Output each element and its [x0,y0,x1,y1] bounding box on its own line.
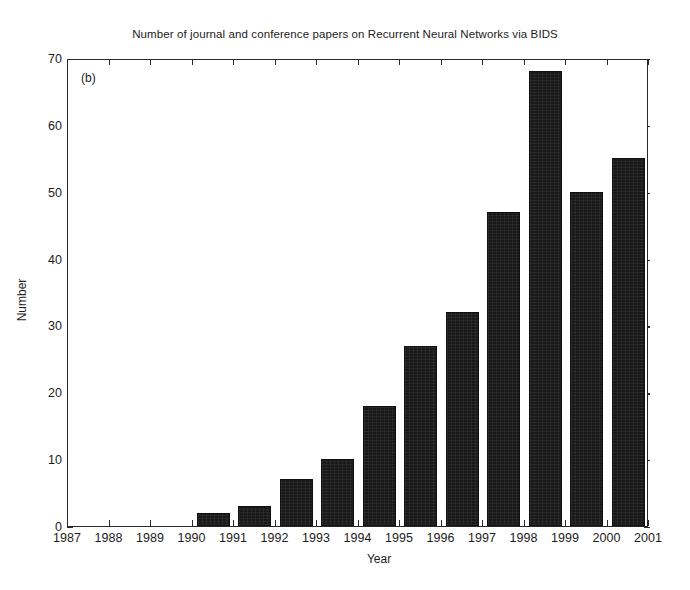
x-tick-mark-1999 [565,520,566,526]
x-tick-mark-1988 [109,520,110,526]
x-tick-mark-top-2001 [648,59,649,65]
bar-1999 [570,192,603,526]
y-tick-60: 60 [16,119,62,133]
x-tick-mark-1991 [233,520,234,526]
bar-1997 [487,212,520,526]
x-axis-tick-marks [67,520,648,528]
x-tick-mark-1998 [524,520,525,526]
x-tick-mark-1987 [67,520,68,526]
x-tick-mark-1996 [441,520,442,526]
y-tick-30: 30 [16,319,62,333]
bar-1995 [404,346,437,527]
bar-1998 [529,71,562,526]
x-tick-mark-top-1997 [482,59,483,65]
x-tick-mark-top-1995 [399,59,400,65]
x-tick-mark-top-1998 [524,59,525,65]
x-tick-mark-top-2000 [607,59,608,65]
x-tick-mark-1990 [192,520,193,526]
x-tick-mark-top-1994 [358,59,359,65]
y-tick-50: 50 [16,186,62,200]
y-tick-40: 40 [16,253,62,267]
x-tick-mark-1989 [150,520,151,526]
y-axis-tick-labels: 010203040506070 [12,59,62,527]
x-axis-label: Year [0,552,690,566]
bar-1994 [363,406,396,526]
x-tick-mark-top-1999 [565,59,566,65]
y-tick-10: 10 [16,453,62,467]
x-tick-mark-top-1990 [192,59,193,65]
x-tick-mark-1994 [358,520,359,526]
x-tick-mark-top-1989 [150,59,151,65]
x-tick-2001: 2001 [618,531,678,545]
y-tick-20: 20 [16,386,62,400]
x-tick-mark-top-1996 [441,59,442,65]
figure-canvas: Number of journal and conference papers … [0,0,690,590]
x-tick-mark-1993 [316,520,317,526]
y-tick-70: 70 [16,52,62,66]
x-tick-mark-top-1988 [109,59,110,65]
bar-2000 [612,158,645,526]
bar-1993 [321,459,354,526]
bar-1996 [446,312,479,526]
bar-1992 [280,479,313,526]
x-axis-tick-labels: 1987198819891990199119921993199419951996… [0,531,690,549]
x-tick-mark-top-1993 [316,59,317,65]
x-tick-mark-1995 [399,520,400,526]
x-tick-mark-2001 [648,520,649,526]
plot-area: (b) [67,59,648,527]
x-tick-mark-top-1991 [233,59,234,65]
x-tick-mark-top-1987 [67,59,68,65]
x-tick-mark-1997 [482,520,483,526]
x-tick-mark-top-1992 [275,59,276,65]
x-axis-tick-marks-top [67,59,648,67]
x-tick-mark-2000 [607,520,608,526]
chart-title: Number of journal and conference papers … [0,28,690,40]
bar-series [68,60,647,526]
x-tick-mark-1992 [275,520,276,526]
